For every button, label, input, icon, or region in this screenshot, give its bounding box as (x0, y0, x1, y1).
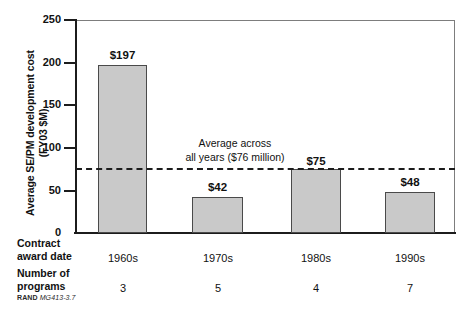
bar-1980s (291, 169, 341, 233)
y-tick-label-250-wrap: 250 (0, 14, 61, 25)
programs-count-1970s: 5 (188, 282, 248, 294)
source-note-publisher: RAND (17, 294, 38, 301)
bar-1990s (385, 192, 435, 233)
category-label-1960s: 1960s (93, 252, 153, 264)
y-tick-label-250: 250 (1, 14, 61, 25)
source-note-document-id: MG413-3.7 (40, 294, 76, 301)
y-tick-label-50-wrap: 50 (0, 185, 61, 196)
category-label-1970s: 1970s (188, 252, 248, 264)
programs-count-1960s: 3 (93, 282, 153, 294)
y-tick-label-100-wrap: 100 (0, 142, 61, 153)
y-axis-title: Average SE/PM development cost (FY03 $M) (24, 18, 50, 248)
average-annotation: Average across all years ($76 million) (150, 137, 320, 164)
row-label-contract-award-date: Contract award date (17, 237, 85, 263)
y-tick-label-150-wrap: 150 (0, 99, 61, 110)
source-note: RAND MG413-3.7 (17, 294, 76, 301)
average-reference-line (76, 168, 455, 170)
y-axis-line (75, 19, 77, 234)
y-tick-label-100: 100 (1, 142, 61, 153)
y-tick-label-200: 200 (1, 57, 61, 68)
chart-figure: Average SE/PM development cost (FY03 $M)… (0, 0, 471, 323)
bar-value-label-1970s: $42 (192, 181, 243, 193)
y-tick-label-50: 50 (1, 185, 61, 196)
row-label-number-of-programs: Number of programs (17, 267, 85, 293)
y-tick-mark-150 (64, 104, 76, 106)
programs-count-1980s: 4 (286, 282, 346, 294)
bar-value-label-1990s: $48 (385, 176, 435, 188)
category-label-1990s: 1990s (380, 252, 440, 264)
y-tick-label-150: 150 (1, 99, 61, 110)
y-tick-label-200-wrap: 200 (0, 57, 61, 68)
bar-value-label-1960s: $197 (98, 49, 147, 61)
y-tick-mark-100 (64, 147, 76, 149)
y-tick-mark-250 (64, 19, 76, 21)
category-label-1980s: 1980s (286, 252, 346, 264)
bar-1970s (192, 197, 243, 233)
bar-1960s (98, 65, 147, 233)
y-tick-mark-50 (64, 190, 76, 192)
programs-count-1990s: 7 (380, 282, 440, 294)
y-tick-mark-200 (64, 62, 76, 64)
